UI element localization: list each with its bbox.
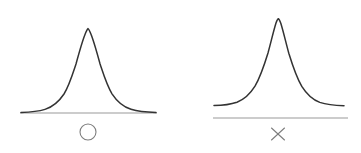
right-panel-svg bbox=[180, 0, 361, 153]
left-panel-svg bbox=[0, 0, 180, 153]
bell-curve-panel-accepted bbox=[0, 0, 180, 153]
bell-curve-panel-rejected bbox=[180, 0, 361, 153]
circle-marker bbox=[80, 124, 96, 140]
figure-root bbox=[0, 0, 361, 153]
cross-marker bbox=[272, 128, 285, 140]
gaussian-curve-right bbox=[214, 19, 344, 106]
gaussian-curve-left bbox=[21, 29, 156, 113]
